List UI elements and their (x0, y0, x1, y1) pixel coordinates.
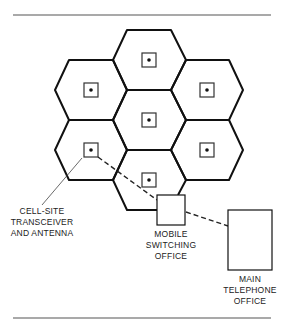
antenna-icon (205, 148, 209, 152)
antenna-icon (147, 58, 151, 62)
link-mso-to-main (186, 212, 228, 226)
mto-label-2: TELEPHONE (223, 285, 276, 295)
antenna-icon (147, 118, 151, 122)
mso-label-3: OFFICE (155, 251, 187, 261)
mobile-switching-office-box (157, 195, 185, 225)
antenna-icon (89, 88, 93, 92)
antenna-icon (147, 178, 151, 182)
cellular-network-diagram: CELL-SITE TRANSCEIVER AND ANTENNA MOBILE… (0, 0, 286, 321)
main-telephone-office-box (228, 210, 272, 270)
mto-label-1: MAIN (239, 274, 261, 284)
antenna-icon (205, 88, 209, 92)
mso-label-1: MOBILE (154, 229, 187, 239)
mso-label-2: SWITCHING (146, 240, 196, 250)
antenna-icon (89, 148, 93, 152)
cell-site-label-1: CELL-SITE (20, 206, 65, 216)
cell-site-label-3: AND ANTENNA (11, 228, 74, 238)
cell-site-label-2: TRANSCEIVER (11, 217, 74, 227)
mto-label-3: OFFICE (234, 296, 266, 306)
